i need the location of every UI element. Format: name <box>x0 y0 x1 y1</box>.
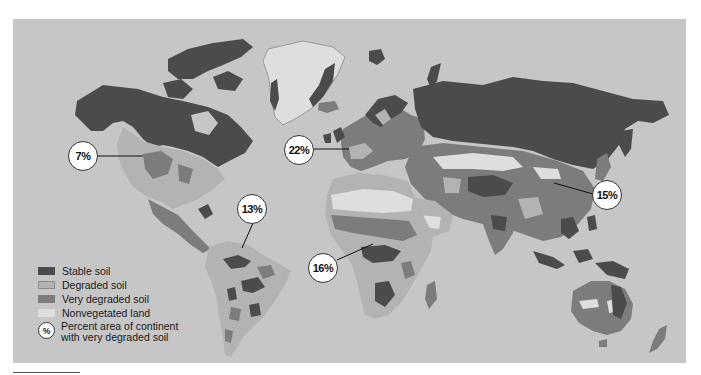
legend-item-stable: Stable soil <box>38 264 178 278</box>
callout-africa: 16% <box>308 253 338 283</box>
legend-label: Nonvegetated land <box>62 307 150 319</box>
region-kamchatka <box>619 129 633 157</box>
stable-soil-swatch <box>38 267 55 275</box>
percent-legend-text: Percent area of continent with very degr… <box>61 321 178 343</box>
legend-label: Very degraded soil <box>62 293 149 305</box>
region-arctic-islands <box>163 39 253 99</box>
very-degraded-soil-swatch <box>38 295 55 303</box>
legend-item-degraded: Degraded soil <box>38 278 178 292</box>
region-new-guinea <box>595 261 629 279</box>
region-south-america <box>205 241 291 357</box>
leader-south-america <box>242 223 253 248</box>
callout-asia: 15% <box>592 180 622 210</box>
legend-item-very-degraded: Very degraded soil <box>38 292 178 306</box>
region-madagascar <box>425 281 437 309</box>
percent-icon: % <box>38 322 55 339</box>
percent-legend-line2: with very degraded soil <box>61 331 168 343</box>
legend-label: Stable soil <box>62 265 110 277</box>
region-central-america <box>148 199 211 253</box>
callout-south-america: 13% <box>237 194 267 224</box>
callout-north-america: 7% <box>68 141 98 171</box>
legend-item-percent: % Percent area of continent with very de… <box>38 321 178 343</box>
map-legend: Stable soil Degraded soil Very degraded … <box>38 264 178 343</box>
degraded-soil-swatch <box>38 281 55 289</box>
callout-europe: 22% <box>284 135 314 165</box>
footnote-rule <box>13 372 80 373</box>
nonvegetated-land-swatch <box>38 309 55 317</box>
legend-label: Degraded soil <box>62 279 127 291</box>
region-new-zealand <box>649 325 667 353</box>
legend-item-nonvegetated: Nonvegetated land <box>38 306 178 320</box>
region-iceland <box>318 101 339 113</box>
